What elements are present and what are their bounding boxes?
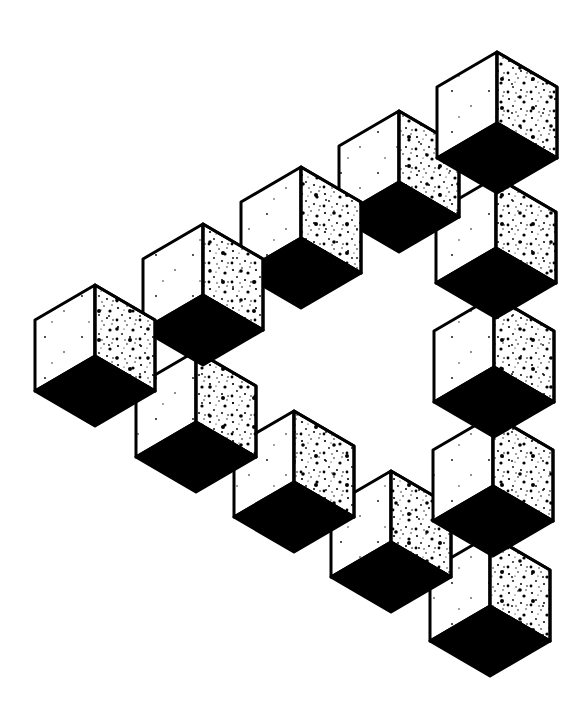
impossible-triangle-figure	[0, 0, 586, 720]
cube-group	[35, 52, 557, 676]
